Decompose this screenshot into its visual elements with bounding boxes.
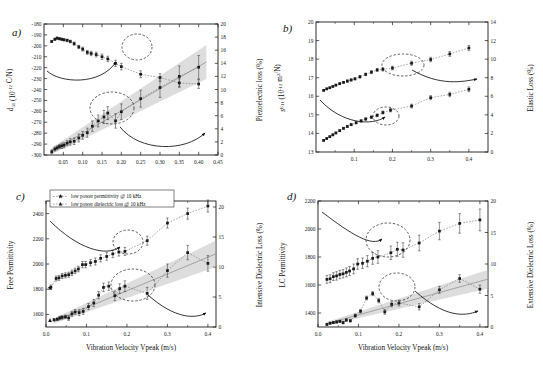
x-tick-label: 0.3 (436, 331, 443, 337)
y-tick-label-right: 15 (491, 230, 497, 236)
data-point (56, 37, 59, 40)
series-elastic-loss (322, 87, 470, 142)
data-point (106, 58, 109, 61)
x-tick-label: 0.2 (389, 156, 396, 162)
data-point (479, 219, 482, 222)
data-point (50, 150, 53, 153)
data-point (418, 242, 421, 245)
data-point (106, 112, 109, 115)
plot-frame (316, 22, 488, 152)
x-tick-label: 0.25 (136, 159, 146, 165)
x-tick-label: 0.15 (97, 159, 107, 165)
y-tick-label-left: -180 (32, 21, 42, 27)
y-tick-label-left: 19 (308, 38, 314, 44)
data-point (354, 314, 357, 317)
data-point (332, 321, 335, 324)
y-tick-label-left: -190 (32, 32, 42, 38)
data-point (328, 86, 331, 89)
fit-line (52, 62, 207, 151)
data-point (74, 270, 77, 273)
data-point (342, 127, 345, 130)
data-point (61, 316, 64, 319)
data-point (120, 65, 123, 68)
y-tick-label-right: 0 (491, 149, 494, 155)
y-axis-title-left: Free Permittivity (7, 240, 15, 289)
data-point (86, 51, 89, 54)
y-axis-title-right: Extensive Dielectric Loss (%) (527, 221, 535, 308)
y-axis-title-left: d31 (10-12 C/N) (6, 68, 16, 111)
data-point (338, 82, 341, 85)
y-tick-label-left: -250 (32, 97, 42, 103)
data-point (60, 144, 63, 147)
data-point (124, 250, 127, 253)
y-tick-label-left: -270 (32, 119, 42, 125)
y-tick-label-right: 20 (221, 21, 227, 27)
panel-b-plot: 0.10.20.30.4131415161718192002468101214s… (272, 0, 543, 187)
y-tick-label-right: 14 (491, 19, 497, 25)
data-point (95, 53, 98, 56)
y-tick-label-right: 12 (491, 38, 497, 44)
data-point (345, 319, 348, 322)
y-tick-label-left: 1400 (305, 310, 316, 316)
data-point (410, 62, 413, 65)
data-point (77, 137, 80, 140)
y-tick-label-right: 20 (491, 198, 497, 204)
panel-d: 0.00.10.20.30.41400160018002000220005101… (272, 187, 543, 374)
data-point (124, 285, 127, 288)
y-tick-label-left: 2200 (33, 236, 44, 242)
y-tick-label-left: 16 (308, 93, 314, 99)
data-point (349, 319, 352, 322)
data-point (186, 251, 189, 254)
data-point (370, 116, 373, 119)
data-point (383, 311, 386, 314)
data-point (458, 222, 461, 225)
annotation-arrow (50, 221, 120, 251)
data-point (429, 58, 432, 61)
data-point (94, 260, 97, 263)
x-tick-label: 0.35 (175, 159, 185, 165)
data-point (370, 71, 373, 74)
data-point (376, 114, 379, 117)
data-point (342, 321, 345, 324)
data-point (339, 273, 342, 276)
data-point (67, 273, 70, 276)
x-tick-label: 0.0 (315, 331, 322, 337)
annotation-arrow (412, 70, 477, 82)
data-point (90, 52, 93, 55)
data-point (322, 139, 325, 142)
data-point (418, 305, 421, 308)
y-tick-label-left: 1600 (33, 311, 44, 317)
x-tick-label: 0.20 (117, 159, 127, 165)
y-tick-label-left: -200 (32, 43, 42, 49)
data-point (448, 53, 451, 56)
x-tick-label: 0.1 (355, 331, 362, 337)
data-point (371, 257, 374, 260)
x-tick-label: 0.30 (155, 159, 165, 165)
data-point (139, 97, 142, 100)
series-lc-permittivity (326, 209, 482, 283)
y-tick-label-right: 6 (491, 93, 494, 99)
x-tick-label: 0.0 (43, 331, 50, 337)
data-point (390, 251, 393, 254)
data-point (354, 77, 357, 80)
data-point (345, 271, 348, 274)
y-axis-title-left: sE11 (10-12 m2/N) (274, 64, 287, 112)
data-point (63, 144, 66, 147)
data-point (53, 38, 56, 41)
data-point (335, 132, 338, 135)
data-point (53, 318, 56, 321)
data-point (73, 42, 76, 45)
data-point (322, 89, 325, 92)
data-point (398, 302, 401, 305)
data-point (67, 317, 70, 320)
y-tick-label-left: 20 (308, 19, 314, 25)
y-axis-title-right: Piezoelectric loss (%) (256, 58, 264, 121)
y-tick-label-right: 5 (491, 293, 494, 299)
data-point (350, 123, 353, 126)
data-point (99, 257, 102, 260)
data-point (186, 212, 189, 215)
annotation-arrow (320, 100, 385, 122)
data-point (338, 129, 341, 132)
data-point (332, 275, 335, 278)
y-tick-label-left: -230 (32, 76, 42, 82)
